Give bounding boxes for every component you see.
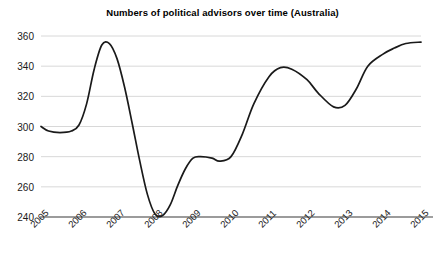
y-tick-280: 280 — [4, 151, 34, 162]
data-line-political-advisors — [41, 42, 421, 217]
line-chart: Numbers of political advisors over time … — [0, 0, 445, 256]
gridlines — [41, 36, 421, 217]
y-tick-360: 360 — [4, 31, 34, 42]
y-tick-320: 320 — [4, 91, 34, 102]
y-tick-300: 300 — [4, 121, 34, 132]
y-tick-260: 260 — [4, 181, 34, 192]
y-tick-340: 340 — [4, 61, 34, 72]
